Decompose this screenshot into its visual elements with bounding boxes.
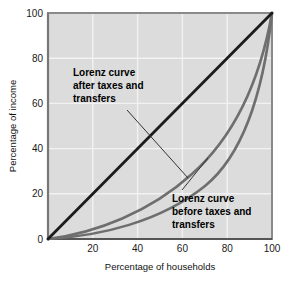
y-tick-label-0: 0 xyxy=(37,234,43,245)
x-axis-title: Percentage of households xyxy=(105,261,216,272)
x-tick-label-80: 80 xyxy=(222,243,234,254)
y-tick-label-100: 100 xyxy=(26,8,43,19)
annotation-after-taxes-line-2: after taxes and xyxy=(73,80,144,91)
annotation-after-taxes-line-1: Lorenz curve xyxy=(73,67,136,78)
annotation-after-taxes-line-3: transfers xyxy=(73,93,116,104)
y-axis-title: Percentage of income xyxy=(7,80,18,172)
y-tick-label-60: 60 xyxy=(32,98,44,109)
annotation-before-taxes-line-2: before taxes and xyxy=(172,206,251,217)
y-tick-label-80: 80 xyxy=(32,53,44,64)
x-tick-label-20: 20 xyxy=(87,243,99,254)
lorenz-curve-figure: 20 40 60 80 100 0 20 40 60 80 100 Percen… xyxy=(0,0,292,282)
x-tick-label-60: 60 xyxy=(177,243,189,254)
x-tick-label-40: 40 xyxy=(132,243,144,254)
y-tick-label-40: 40 xyxy=(32,143,44,154)
annotation-before-taxes-line-3: transfers xyxy=(172,219,215,230)
x-tick-label-100: 100 xyxy=(264,243,281,254)
y-tick-label-20: 20 xyxy=(32,188,44,199)
annotation-before-taxes-line-1: Lorenz curve xyxy=(172,193,235,204)
